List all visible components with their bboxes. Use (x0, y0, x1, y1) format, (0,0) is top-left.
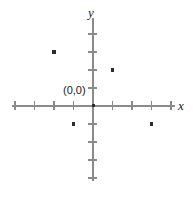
y-axis-tick (88, 87, 97, 88)
data-point (52, 50, 55, 53)
data-point (111, 68, 114, 71)
y-axis-label: y (88, 6, 94, 19)
y-axis-tick (88, 141, 97, 142)
x-axis-tick (151, 101, 152, 110)
origin-coordinate-label: (0,0) (63, 85, 86, 96)
x-axis-tick (34, 101, 35, 110)
x-axis-tick (53, 101, 54, 110)
y-axis-tick (88, 33, 97, 34)
x-axis-label: x (178, 99, 184, 112)
origin-point-marker (92, 104, 95, 107)
x-axis-tick (73, 101, 74, 110)
y-axis-tick (88, 123, 97, 124)
y-axis-line (92, 18, 94, 181)
y-axis-tick (88, 159, 97, 160)
y-axis-tick (88, 69, 97, 70)
x-axis-tick (112, 101, 113, 110)
data-point (150, 122, 153, 125)
x-axis-tick (170, 101, 171, 110)
coordinate-plane-figure: (0,0) y x (0, 0, 193, 198)
y-axis-tick (88, 51, 97, 52)
data-point (72, 122, 75, 125)
x-axis-tick (14, 101, 15, 110)
x-axis-tick (131, 101, 132, 110)
y-axis-tick (88, 177, 97, 178)
